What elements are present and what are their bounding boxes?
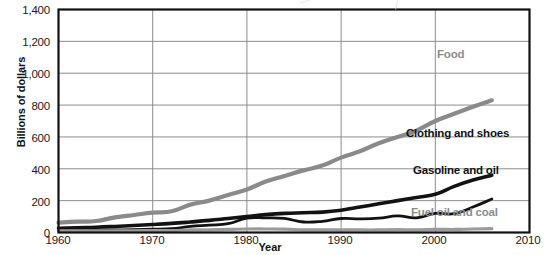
x-axis-label: Year — [0, 241, 540, 253]
y-tick-1000: 1,000 — [6, 68, 50, 80]
gridlines — [59, 10, 530, 233]
y-tick-200: 200 — [6, 196, 50, 208]
series-label-clothing: Clothing and shoes — [406, 127, 509, 139]
y-tick-400: 400 — [6, 164, 50, 176]
series-line-food — [59, 100, 492, 222]
plot-frame — [59, 10, 530, 233]
series-label-fueloil: Fuel oil and coal — [411, 206, 498, 218]
y-tick-1200: 1,200 — [6, 36, 50, 48]
series-label-food: Food — [437, 48, 464, 60]
series-line-clothing-and-shoes — [59, 175, 492, 228]
series-label-gasoline: Gasoline and oil — [413, 164, 499, 176]
y-tick-1400: 1,400 — [6, 4, 50, 16]
y-tick-800: 800 — [6, 100, 50, 112]
y-tick-600: 600 — [6, 132, 50, 144]
